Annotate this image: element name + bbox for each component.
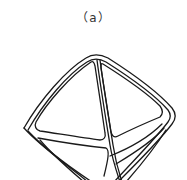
face-upper-left [35,62,105,140]
crystal-outline-drawing [0,0,187,180]
